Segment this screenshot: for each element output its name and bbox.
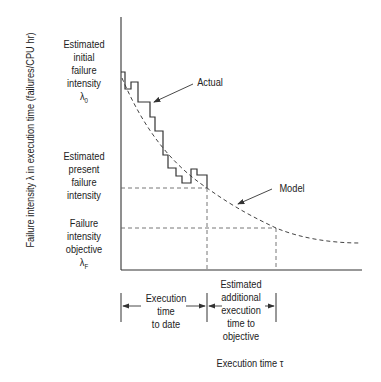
actual-label: Actual [192, 76, 227, 89]
lambda-zero-symbol: λ0 [56, 90, 112, 107]
lambda-f-symbol: λF [56, 256, 112, 273]
actual-curve [121, 72, 207, 188]
reliability-growth-diagram: Failure intensity λ in execution time (f… [0, 0, 381, 382]
execution-time-to-date-label: Execution time to date [137, 292, 195, 331]
actual-pointer-arrow [154, 84, 193, 102]
model-pointer-arrow [238, 189, 272, 204]
model-curve [122, 78, 360, 243]
present-intensity-label: Estimated present failure intensity [56, 150, 112, 202]
additional-execution-time-label: Estimated additional execution time to o… [212, 278, 270, 343]
model-label: Model [274, 182, 309, 195]
initial-intensity-label: Estimated initial failure intensity λ0 [56, 38, 112, 107]
objective-intensity-label: Failure intensity objective λF [56, 217, 112, 273]
x-axis-label: Execution time τ [206, 357, 294, 370]
